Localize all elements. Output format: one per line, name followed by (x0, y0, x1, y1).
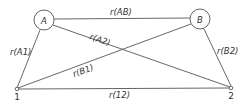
node-1 (15, 87, 19, 91)
edge-B-2 (204, 29, 231, 86)
node-2-label: 2 (228, 91, 234, 101)
edge-A-B (54, 18, 190, 19)
edge-label-B2: r(B2) (217, 46, 238, 56)
edge-1-2 (19, 88, 229, 89)
edge-label-12: r(12) (109, 90, 130, 100)
edge-B-1 (18, 24, 191, 88)
edge-label-B1: r(B1) (71, 62, 95, 79)
distance-diagram: A B 1 2 r(AB) r(A1) r(A2) r(B1) r(B2) r(… (0, 0, 250, 104)
edge-label-A2: r(A2) (88, 31, 111, 47)
edge-label-AB: r(AB) (110, 7, 132, 17)
edge-A-2 (53, 25, 230, 87)
node-A-label: A (40, 16, 47, 26)
edge-A-1 (17, 30, 40, 88)
node-1-label: 1 (14, 92, 20, 102)
node-B-label: B (197, 15, 203, 25)
edge-label-A1: r(A1) (10, 47, 31, 57)
node-2 (229, 86, 233, 90)
